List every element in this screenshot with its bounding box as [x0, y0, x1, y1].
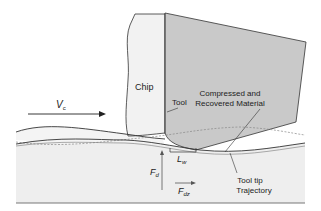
tool-label: Tool — [172, 98, 187, 107]
compressed-material-label-2: Recovered Material — [195, 99, 265, 108]
trajectory-label-2: Trajectory — [236, 186, 271, 195]
vc-arrowhead-icon — [99, 111, 106, 117]
cutting-diagram: Vc Chip Tool Compressed and Recovered Ma… — [0, 0, 321, 211]
vc-label: Vc — [56, 99, 66, 111]
compressed-material-label-1: Compressed and — [200, 89, 261, 98]
tool-shape — [165, 13, 306, 150]
chip-label: Chip — [135, 82, 154, 92]
chip-shape — [126, 14, 165, 136]
trajectory-label-1: Tool tip — [237, 176, 263, 185]
